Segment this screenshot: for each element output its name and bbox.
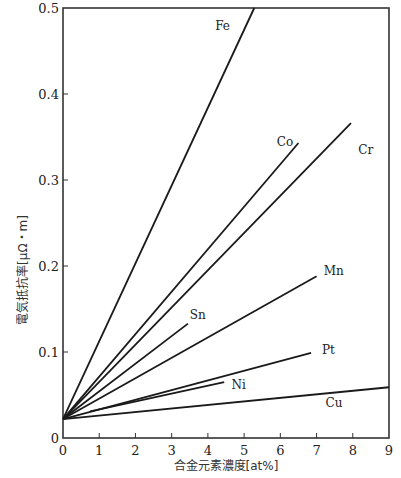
y-tick-label: 0 [51,431,59,446]
series-label-fe: Fe [215,19,230,33]
series-lines [63,8,389,419]
series-line-fe [63,8,254,419]
x-tick-label: 9 [385,443,393,458]
y-tick-label: 0.3 [38,173,59,188]
series-line-ni [90,382,224,411]
resistivity-chart: 012345678900.10.20.30.40.5 FeCoCrMnSnPtN… [0,0,401,478]
x-tick-label: 7 [312,443,320,458]
series-label-mn: Mn [324,264,344,278]
plot-border [63,8,389,438]
series-label-cu: Cu [326,396,343,410]
y-tick-label: 0.4 [38,87,59,102]
series-label-ni: Ni [231,378,246,392]
y-tick-label: 0.1 [38,345,59,360]
x-tick-label: 4 [204,443,212,458]
series-label-sn: Sn [190,308,206,322]
x-tick-label: 8 [349,443,357,458]
y-tick-label: 0.5 [38,1,59,16]
x-tick-label: 0 [59,443,67,458]
x-tick-label: 2 [131,443,139,458]
plot-frame [63,8,389,438]
y-axis-title: 電気抵抗率[μΩ・m] [15,215,30,325]
series-line-cr [63,123,351,419]
series-line-co [63,143,298,419]
series-label-cr: Cr [358,143,373,157]
x-tick-label: 5 [240,443,248,458]
series-line-sn [63,324,188,419]
series-label-co: Co [277,135,293,149]
x-tick-label: 3 [168,443,176,458]
x-axis-title: 合金元素濃度[at%] [174,458,279,473]
x-tick-label: 1 [95,443,103,458]
series-labels: FeCoCrMnSnPtNiCu [190,19,374,411]
series-label-pt: Pt [322,343,335,357]
y-tick-label: 0.2 [38,259,59,274]
x-tick-label: 6 [276,443,284,458]
